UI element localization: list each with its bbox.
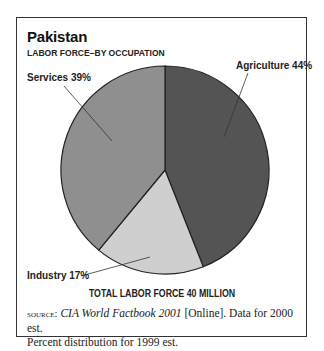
label-services: Services 39% bbox=[27, 72, 91, 83]
label-agriculture: Agriculture 44% bbox=[236, 60, 312, 71]
source-note: source: CIA World Factbook 2001 [Online]… bbox=[27, 306, 302, 349]
label-industry: Industry 17% bbox=[27, 270, 89, 281]
total-labor-force: TOTAL LABOR FORCE 40 MILLION bbox=[19, 288, 304, 299]
source-line2: Percent distribution for 1999 est. bbox=[27, 336, 178, 348]
source-publication: CIA World Factbook 2001 bbox=[60, 307, 181, 319]
source-prefix: source: bbox=[27, 308, 58, 319]
